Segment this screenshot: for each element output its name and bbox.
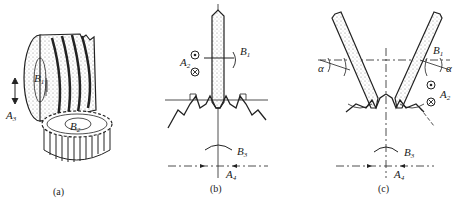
a2-out-of-plane-symbols-icon xyxy=(427,81,435,106)
grinding-disc xyxy=(212,10,224,108)
label-a2-b: A2 xyxy=(179,56,191,70)
label-a4-b: A4 xyxy=(225,168,237,182)
label-a4-c: A4 xyxy=(393,168,405,182)
label-b3-b: B3 xyxy=(237,145,248,159)
panel-a-worm-wheel-grinding: B1 B2 A3 (a) xyxy=(5,34,112,198)
label-alpha-left: α xyxy=(318,62,324,74)
caption-c: (c) xyxy=(378,183,389,195)
panel-c-double-disc-grinding: α α B1 A2 B3 A4 (c) xyxy=(318,12,452,195)
caption-b: (b) xyxy=(210,183,222,195)
gear-tooth-profile xyxy=(346,94,424,112)
a2-out-of-plane-symbols-icon xyxy=(191,51,199,76)
gear-grinding-diagram: B1 B2 A3 (a) A2 B1 B3 A4 (b) xyxy=(0,0,457,208)
label-a3-a: A3 xyxy=(5,109,17,123)
rotation-arrow-b3-icon xyxy=(205,145,232,150)
feed-arrow-a3-icon xyxy=(12,78,18,104)
label-a2-c: A2 xyxy=(439,88,451,102)
rotation-arrow-b1-icon xyxy=(233,52,236,68)
rotation-arrow-b1-icon xyxy=(425,58,427,76)
caption-a: (a) xyxy=(53,186,64,198)
panel-b-single-disc-grinding: A2 B1 B3 A4 (b) xyxy=(165,4,268,195)
label-alpha-right: α xyxy=(446,62,452,74)
label-b1-b: B1 xyxy=(240,45,250,59)
label-b1-c: B1 xyxy=(433,44,443,58)
workpiece-gear xyxy=(42,111,112,162)
label-b3-c: B3 xyxy=(404,146,415,160)
